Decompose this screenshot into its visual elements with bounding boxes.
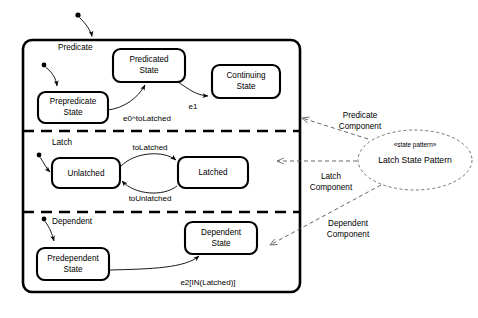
transition-to-unlatched-label: toUnlatched <box>129 194 172 203</box>
transition-e2-in-latched-label: e2[IN(Latched)] <box>180 278 235 287</box>
initial-state-dot-composite <box>75 12 80 17</box>
initial-transition-composite <box>80 17 93 36</box>
state-predicated-label-line1: Predicated <box>129 55 169 64</box>
initial-state-dot-latch <box>37 153 42 158</box>
state-predicated-label-line2: State <box>139 66 159 75</box>
state-pattern-name: Latch State Pattern <box>378 155 452 165</box>
state-diagram-canvas: Predicate Prepredicate State Predicated … <box>0 0 478 318</box>
latch-component-label-line2: Component <box>310 183 353 192</box>
region-label-predicate: Predicate <box>58 43 93 52</box>
state-prepredicate-label-line1: Prepredicate <box>50 97 97 106</box>
region-label-latch: Latch <box>52 138 72 147</box>
region-label-dependent: Dependent <box>52 217 93 226</box>
state-unlatched-label: Unlatched <box>68 169 105 178</box>
predicate-component-label-line1: Predicate <box>343 111 378 120</box>
initial-state-dot-predicate <box>42 63 47 68</box>
state-predependent-label-line1: Predependent <box>47 254 99 263</box>
state-latched-label: Latched <box>198 168 228 177</box>
transition-e1-label: e1 <box>189 102 198 111</box>
transition-to-latched-label: toLatched <box>132 143 167 152</box>
state-dependent-label-line1: Dependent <box>201 228 242 237</box>
state-predependent-label-line2: State <box>63 265 83 274</box>
latch-component-label-line1: Latch <box>321 172 341 181</box>
state-continuing-label-line2: State <box>236 82 256 91</box>
state-pattern-stereotype: «state pattern» <box>394 141 437 149</box>
dependent-component-label-line2: Component <box>327 230 370 239</box>
state-continuing-label-line1: Continuing <box>226 71 266 80</box>
state-prepredicate-label-line2: State <box>63 108 83 117</box>
state-dependent[interactable] <box>185 222 257 254</box>
diagram-svg: Predicate Prepredicate State Predicated … <box>0 0 478 318</box>
state-predependent[interactable] <box>37 248 109 280</box>
transition-e0-to-latched-label: e0^toLatched <box>123 114 171 123</box>
state-dependent-label-line2: State <box>211 239 231 248</box>
predicate-component-label-line2: Component <box>339 122 382 131</box>
dependent-component-label-line1: Dependent <box>328 219 369 228</box>
initial-state-dot-dependent <box>42 217 47 222</box>
